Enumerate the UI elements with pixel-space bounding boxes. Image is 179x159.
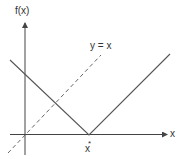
diagram-canvas: f(x) x y = x x * — [0, 0, 179, 159]
y-axis-label: f(x) — [15, 5, 29, 16]
minimizer-superscript: * — [88, 139, 91, 148]
reference-line-label: y = x — [90, 40, 111, 51]
x-axis-label: x — [170, 128, 175, 139]
